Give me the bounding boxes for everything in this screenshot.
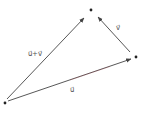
label-sum: u⃗+v⃗ xyxy=(28,50,42,58)
point-b xyxy=(135,56,138,59)
label-v: v⃗ xyxy=(116,24,120,32)
vector-diagram: u⃗+v⃗ v⃗ u⃗ xyxy=(0,0,150,113)
point-a xyxy=(4,102,7,105)
point-c xyxy=(90,9,93,12)
vector-u xyxy=(8,59,131,101)
label-u: u⃗ xyxy=(70,86,74,94)
vector-u-highlight xyxy=(70,67,110,81)
vector-v xyxy=(98,17,130,52)
